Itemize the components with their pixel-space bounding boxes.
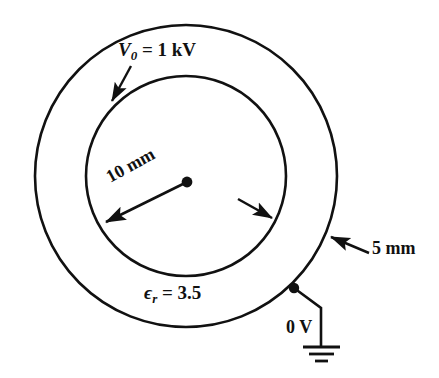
relative-permittivity-label: ϵr = 3.5 (144, 283, 201, 305)
diagram-canvas (0, 0, 439, 378)
inner-conductor-voltage-label: V0 = 1 kV (118, 40, 196, 62)
ground-potential-label: 0 V (286, 318, 312, 336)
voltage-value: = 1 kV (142, 39, 196, 60)
inner-circle-pointer-arrow (238, 199, 272, 218)
thickness-leader-arrow (331, 237, 369, 253)
epsilon-subscript: r (152, 291, 157, 306)
coaxial-cable-figure: V0 = 1 kV 10 mm ϵr = 3.5 5 mm 0 V (0, 0, 439, 378)
center-point-dot (182, 177, 193, 188)
voltage-subscript: 0 (131, 48, 138, 63)
permittivity-value: = 3.5 (162, 282, 201, 303)
inner-radius-arrow (106, 183, 185, 222)
dielectric-thickness-label: 5 mm (372, 239, 416, 257)
epsilon-symbol: ϵ (144, 282, 152, 303)
voltage-symbol: V (118, 39, 131, 60)
